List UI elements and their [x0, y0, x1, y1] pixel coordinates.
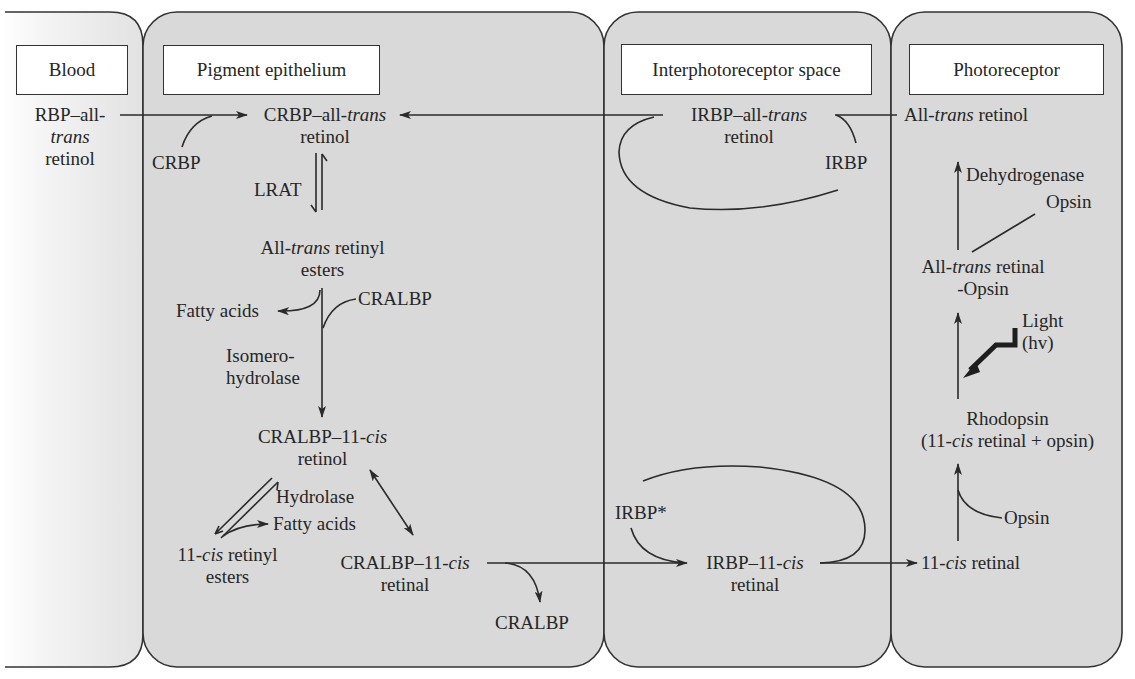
irbp-trans-a: IRBP–all-: [691, 104, 768, 125]
cralbp-retinol-b: cis: [366, 426, 387, 447]
header-blood: Blood: [16, 45, 128, 95]
fatty-acids-label-1: Fatty acids: [176, 300, 259, 322]
irbp-cis-line2: retinal: [690, 574, 820, 596]
esters-b: trans: [291, 237, 330, 258]
hv-text: (hv): [1022, 332, 1063, 354]
all-trans-retinal-opsin: All-trans retinal -Opsin: [898, 256, 1068, 300]
all-trans-retinol: All-trans retinol: [904, 104, 1028, 126]
cis-esters-line2: esters: [160, 566, 295, 588]
irbp-cis-b: cis: [783, 552, 804, 573]
irbp-cis-a: IRBP–11-: [706, 552, 782, 573]
esters-c: retinyl: [330, 237, 384, 258]
header-blood-label: Blood: [49, 59, 95, 81]
lrat-label: LRAT: [254, 179, 302, 201]
cralbp-out-label: CRALBP: [495, 612, 569, 634]
cralbp-retinal-b: cis: [448, 552, 469, 573]
cralbp-retinol-line2: retinol: [240, 448, 405, 470]
isomerohydrolase-label: Isomero- hydrolase: [226, 345, 300, 389]
irbp-trans-b: trans: [768, 104, 807, 125]
rbp-line3: retinol: [20, 148, 120, 170]
crbp-complex-a: CRBP–all-: [264, 104, 347, 125]
rbp-line1: RBP–all-: [20, 104, 120, 126]
header-interphotoreceptor: Interphotoreceptor space: [621, 44, 872, 95]
crbp-label: CRBP: [152, 152, 201, 174]
opsin-top-label: Opsin: [1046, 191, 1091, 213]
rhodopsin-sub-c: retinal + opsin): [973, 430, 1094, 451]
cis-retinal-a: 11-: [921, 552, 946, 573]
cis-retinal-b: cis: [946, 552, 967, 573]
fatty-acids-label-2: Fatty acids: [273, 513, 356, 535]
trans-retinal-b: trans: [952, 256, 991, 277]
cralbp-retinal-a: CRALBP–11-: [340, 552, 448, 573]
irbp-all-trans-retinol: IRBP–all-trans retinol: [664, 104, 834, 148]
crbp-complex-line2: retinol: [250, 126, 400, 148]
light-label: Light (hv): [1022, 310, 1063, 354]
cis-esters-c: retinyl: [223, 544, 277, 565]
isomero-2: hydrolase: [226, 367, 300, 389]
cralbp-in-label: CRALBP: [358, 288, 432, 310]
esters-a: All-: [260, 237, 291, 258]
irbp-label: IRBP: [825, 152, 867, 174]
all-trans-retinyl-esters: All-trans retinyl esters: [240, 237, 405, 281]
irbp-star-label: IRBP*: [615, 502, 667, 524]
cis-esters-b: cis: [202, 544, 223, 565]
cralbp-retinol-a: CRALBP–11-: [258, 426, 366, 447]
isomero-1: Isomero-: [226, 345, 300, 367]
irbp-trans-line2: retinol: [664, 126, 834, 148]
rbp-all-trans-retinol: RBP–all- trans retinol: [20, 104, 120, 170]
rhodopsin: Rhodopsin (11-cis retinal + opsin): [895, 408, 1120, 452]
trans-retinal-line2: -Opsin: [898, 278, 1068, 300]
trans-retinol-c: retinol: [974, 104, 1028, 125]
rbp-line2: trans: [50, 126, 89, 147]
esters-line2: esters: [240, 259, 405, 281]
cralbp-11-cis-retinal: CRALBP–11-cis retinal: [325, 552, 485, 596]
11-cis-retinyl-esters: 11-cis retinyl esters: [160, 544, 295, 588]
header-pigment-label: Pigment epithelium: [197, 59, 346, 81]
cralbp-11-cis-retinol: CRALBP–11-cis retinol: [240, 426, 405, 470]
opsin-bottom-label: Opsin: [1004, 507, 1049, 529]
cralbp-retinal-line2: retinal: [325, 574, 485, 596]
11-cis-retinal: 11-cis retinal: [921, 552, 1020, 574]
header-interphotoreceptor-label: Interphotoreceptor space: [652, 59, 840, 81]
header-photoreceptor: Photoreceptor: [909, 44, 1104, 95]
cis-esters-a: 11-: [177, 544, 202, 565]
header-pigment: Pigment epithelium: [163, 45, 380, 95]
header-photoreceptor-label: Photoreceptor: [953, 59, 1060, 81]
cis-retinal-c: retinal: [967, 552, 1020, 573]
rhodopsin-text: Rhodopsin: [895, 408, 1120, 430]
trans-retinal-a: All-: [922, 256, 953, 277]
trans-retinol-b: trans: [935, 104, 974, 125]
hydrolase-label: Hydrolase: [276, 486, 354, 508]
rhodopsin-sub-b: cis: [952, 430, 973, 451]
light-text: Light: [1022, 310, 1063, 332]
trans-retinal-c: retinal: [991, 256, 1044, 277]
trans-retinol-a: All-: [904, 104, 935, 125]
rhodopsin-sub-a: (11-: [921, 430, 952, 451]
crbp-all-trans-retinol: CRBP–all-trans retinol: [250, 104, 400, 148]
crbp-complex-b: trans: [347, 104, 386, 125]
irbp-11-cis-retinal: IRBP–11-cis retinal: [690, 552, 820, 596]
dehydrogenase-label: Dehydrogenase: [966, 164, 1084, 186]
